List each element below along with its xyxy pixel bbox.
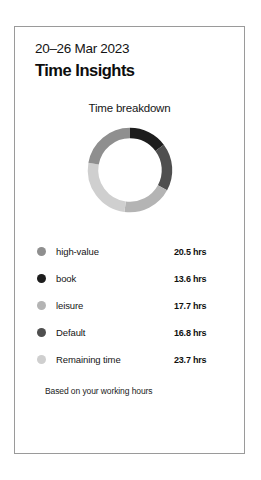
card-header: 20–26 Mar 2023 Time Insights (15, 27, 244, 80)
footnote-label: Based on your working hours (15, 386, 244, 396)
donut-chart-wrapper (15, 122, 244, 218)
legend-value: 16.8 hrs (174, 328, 226, 338)
legend-swatch-icon (37, 301, 46, 310)
legend-swatch-icon (37, 328, 46, 337)
date-range-label: 20–26 Mar 2023 (35, 41, 244, 57)
donut-segment[interactable] (93, 164, 125, 207)
legend-value: 17.7 hrs (174, 301, 226, 311)
donut-segment[interactable] (159, 148, 166, 188)
chart-title: Time breakdown (15, 102, 244, 114)
legend-value: 23.7 hrs (174, 355, 226, 365)
legend-value: 20.5 hrs (174, 247, 226, 257)
legend-swatch-icon (37, 355, 46, 364)
list-item[interactable]: high-value 20.5 hrs (37, 238, 226, 265)
legend-label: Default (56, 327, 174, 338)
donut-segment[interactable] (125, 188, 162, 207)
legend-label: book (56, 273, 174, 284)
donut-segment[interactable] (93, 133, 129, 164)
list-item[interactable]: Default 16.8 hrs (37, 319, 226, 346)
legend-label: high-value (56, 246, 174, 257)
legend-swatch-icon (37, 247, 46, 256)
legend-value: 13.6 hrs (174, 274, 226, 284)
legend-label: Remaining time (56, 354, 174, 365)
list-item[interactable]: Remaining time 23.7 hrs (37, 346, 226, 373)
list-item[interactable]: book 13.6 hrs (37, 265, 226, 292)
donut-segment[interactable] (130, 133, 160, 148)
list-item[interactable]: leisure 17.7 hrs (37, 292, 226, 319)
chart-legend: high-value 20.5 hrs book 13.6 hrs leisur… (15, 238, 244, 373)
legend-swatch-icon (37, 274, 46, 283)
time-insights-card: 20–26 Mar 2023 Time Insights Time breakd… (14, 26, 245, 454)
donut-chart (82, 122, 178, 218)
page-title: Time Insights (35, 60, 244, 80)
legend-label: leisure (56, 300, 174, 311)
